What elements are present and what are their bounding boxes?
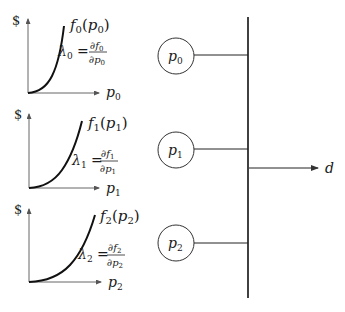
cost-graph-0: $ f0(p0) λ0 = ∂f0 ∂p0 p0 [12,13,121,102]
y-axis-label: $ [12,13,20,28]
y-axis-label: $ [14,202,22,217]
node-p0: p0 [158,38,248,74]
lambda-label: λ2 = [77,246,109,264]
curve-label: f2(p2) [99,207,140,226]
lambda-label: λ1 = [71,152,103,170]
demand-label: d [325,160,334,176]
diagram-canvas: $ f0(p0) λ0 = ∂f0 ∂p0 p0 $ f1(p1) λ1 = ∂… [0,0,345,312]
x-axis-label: p0 [106,84,121,102]
curve-label: f0(p0) [69,16,110,35]
curve-label: f1(p1) [87,114,128,133]
node-p1: p1 [158,132,248,168]
lambda-numerator: ∂f0 [90,40,103,53]
lambda-denominator: ∂p1 [100,163,116,176]
node-p2: p2 [158,225,248,261]
lambda-label: λ0 = [57,43,89,61]
cost-graph-2: $ f2(p2) λ2 = ∂f2 ∂p2 p2 [14,202,140,292]
cost-curve [28,26,64,93]
x-axis-label: p1 [106,180,121,198]
x-axis-label: p2 [108,274,123,292]
demand-output: d [249,160,334,176]
lambda-numerator: ∂f1 [101,148,114,161]
cost-graph-1: $ f1(p1) λ1 = ∂f1 ∂p1 p1 [14,107,128,198]
lambda-denominator: ∂p2 [107,257,123,270]
lambda-numerator: ∂f2 [108,242,121,255]
y-axis-label: $ [14,107,22,122]
lambda-denominator: ∂p0 [89,54,105,67]
